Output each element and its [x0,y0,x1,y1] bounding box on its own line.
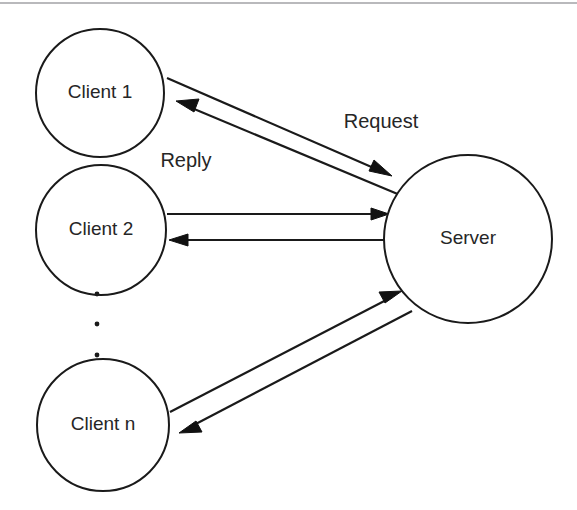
node-clientn[interactable]: Client n [37,359,169,491]
edge-clientn-to-server-request [170,291,402,412]
edge-label-reply: Reply [160,149,211,171]
node-client1[interactable]: Client 1 [36,29,164,157]
ellipsis-dot-1 [95,292,100,297]
arrow-head-client1-request [369,160,392,176]
node-server[interactable]: Server [384,155,552,323]
ellipsis-dot-2 [95,322,100,327]
edge-server-to-client2-reply [169,234,384,246]
edge-label-request: Request [344,110,419,132]
edge-line-clientn-reply [190,311,412,427]
client1-label: Client 1 [68,81,132,102]
client-server-diagram: Client 1 Client 2 Client n Server Reques… [0,0,577,510]
ellipsis-dot-3 [95,353,100,358]
server-label: Server [440,227,497,248]
diagram-canvas: Client 1 Client 2 Client n Server Reques… [0,0,577,510]
arrow-head-client2-reply [169,234,188,246]
edge-line-clientn-request [170,297,392,412]
client2-label: Client 2 [69,218,133,239]
clientn-label: Client n [71,413,135,434]
edge-client2-to-server-request [167,208,389,220]
node-client2[interactable]: Client 2 [36,165,166,295]
edge-server-to-clientn-reply [179,311,412,433]
vertical-ellipsis [95,292,100,358]
